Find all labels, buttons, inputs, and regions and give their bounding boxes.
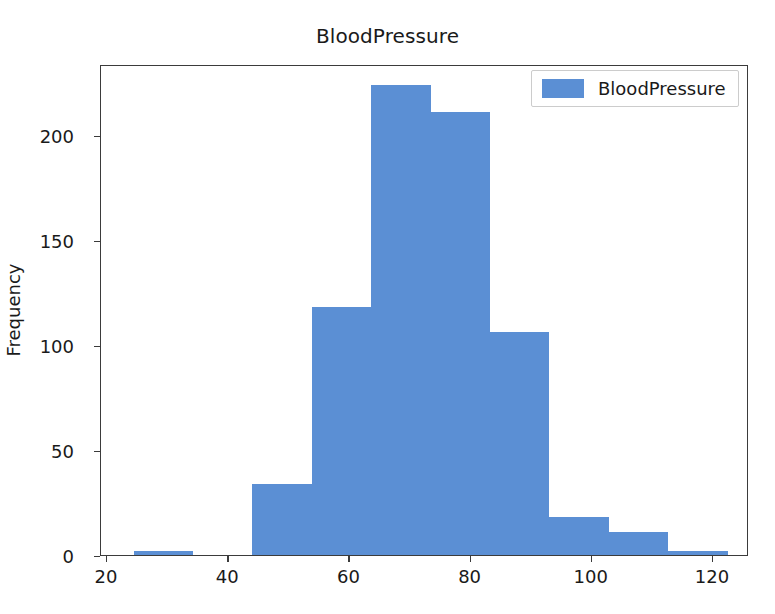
y-axis-tick-mark: [94, 136, 100, 137]
y-axis-tick-label: 150: [4, 231, 84, 252]
x-axis-tick-label: 100: [574, 566, 608, 587]
x-axis-tick-label: 60: [337, 566, 360, 587]
x-axis-tick-mark: [106, 556, 107, 562]
histogram-bar: [431, 112, 490, 555]
x-axis-tick-mark: [227, 556, 228, 562]
y-axis-tick-mark: [94, 556, 100, 557]
x-axis-tick-label: 40: [216, 566, 239, 587]
histogram-bar: [312, 307, 371, 555]
x-axis-tick-label: 120: [695, 566, 729, 587]
y-axis-tick-mark: [94, 451, 100, 452]
x-axis-tick-label: 20: [95, 566, 118, 587]
x-axis-tick-mark: [712, 556, 713, 562]
y-axis-tick-label: 200: [4, 126, 84, 147]
histogram-bar: [371, 85, 430, 555]
histogram-bar: [549, 517, 608, 555]
y-axis-tick-mark: [94, 346, 100, 347]
y-axis-label: Frequency: [3, 264, 24, 357]
chart-title: BloodPressure: [0, 24, 775, 48]
histogram-bar: [134, 551, 193, 555]
x-axis-tick-mark: [470, 556, 471, 562]
histogram-bars: [101, 66, 747, 555]
x-axis-tick-mark: [348, 556, 349, 562]
legend: BloodPressure: [531, 70, 739, 107]
x-axis-tick-mark: [591, 556, 592, 562]
y-axis-tick-mark: [94, 241, 100, 242]
x-axis-tick-label: 80: [458, 566, 481, 587]
y-axis-tick-label: 0: [4, 546, 84, 567]
y-axis-tick-label: 50: [4, 441, 84, 462]
histogram-bar: [609, 532, 668, 555]
legend-label-bloodpressure: BloodPressure: [598, 78, 726, 99]
histogram-bar: [252, 484, 311, 555]
histogram-bar: [490, 332, 549, 555]
legend-swatch-bloodpressure: [542, 79, 584, 98]
histogram-bar: [668, 551, 727, 555]
figure-canvas: BloodPressure 20406080100120 05010015020…: [0, 0, 775, 614]
plot-area: [100, 65, 748, 556]
